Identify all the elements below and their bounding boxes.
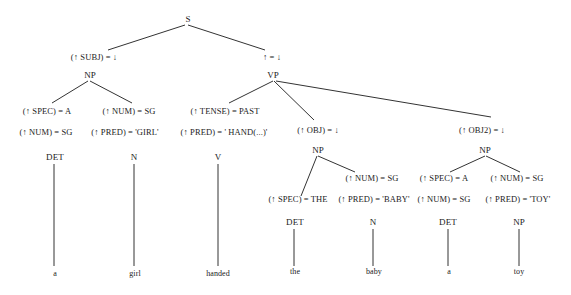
edge-vp-tense	[229, 81, 273, 103]
annot-spec-a-2: (↑ SPEC) = A	[420, 174, 468, 183]
node-vp: VP	[267, 71, 279, 80]
edge-np-spec	[52, 81, 88, 103]
node-det-3: DET	[439, 218, 457, 227]
edge-npobj-spec	[301, 156, 317, 196]
edge-vp-obj2	[276, 81, 491, 117]
leaf-word: handed	[206, 270, 230, 278]
node-s: S	[185, 15, 190, 24]
annot-obj: (↑ OBJ) = ↓	[297, 126, 339, 135]
annot-subj: (↑ SUBJ) = ↓	[71, 53, 117, 62]
leaf-word: toy	[514, 268, 525, 276]
node-det-2: DET	[286, 218, 304, 227]
annot-num-sg-3: (↑ NUM) = SG	[346, 174, 399, 183]
annot-tense: (↑ TENSE) = PAST	[191, 107, 260, 116]
annot-spec-a-1: (↑ SPEC) = A	[23, 107, 71, 116]
leaf-word: the	[290, 268, 300, 276]
annot-spec-the: (↑ SPEC) = THE	[268, 195, 327, 204]
annot-num-sg-1: (↑ NUM) = SG	[103, 107, 156, 116]
node-np-obj2: NP	[479, 146, 491, 155]
leaf-word: a	[53, 270, 57, 278]
annot-pred-girl: (↑ PRED) = 'GIRL'	[91, 128, 158, 137]
edge-npobj2-num	[486, 156, 520, 172]
leaf-word: baby	[366, 268, 382, 276]
edge-s-subj	[108, 25, 185, 50]
annot-num-sg-4: (↑ NUM) = SG	[491, 174, 544, 183]
node-det-1: DET	[46, 153, 64, 162]
edge-np-num	[90, 81, 132, 103]
annot-pred-baby: (↑ PRED) = 'BABY'	[338, 195, 409, 204]
edge-npobj-num	[318, 156, 355, 172]
node-np-obj: NP	[312, 146, 324, 155]
node-np-toy: NP	[513, 218, 525, 227]
leaf-word: girl	[129, 270, 141, 278]
node-np-subj: NP	[84, 71, 96, 80]
annot-head: ↑ = ↓	[263, 53, 281, 62]
edge-s-vp	[188, 25, 265, 50]
node-n-1: N	[131, 153, 138, 162]
annot-pred-toy: (↑ PRED) = 'TOY'	[486, 195, 551, 204]
leaf-word: a	[447, 268, 451, 276]
annot-obj2: (↑ OBJ2) = ↓	[459, 126, 505, 135]
node-v: V	[215, 153, 222, 162]
annot-pred-hand: (↑ PRED) = ' HAND(...)'	[181, 128, 268, 137]
annot-num-sg-5: (↑ NUM) = SG	[418, 195, 471, 204]
node-n-2: N	[370, 218, 377, 227]
annot-num-sg-2: (↑ NUM) = SG	[20, 128, 73, 137]
edge-npobj2-spec	[450, 156, 485, 172]
